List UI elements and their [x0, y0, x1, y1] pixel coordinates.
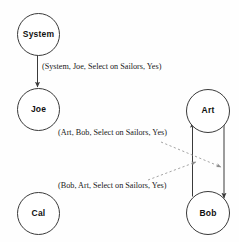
node-art[interactable]: Art [186, 89, 230, 133]
node-system[interactable]: System [17, 13, 60, 56]
edge-label-system-joe: (System, Joe, Select on Sailors, Yes) [42, 63, 161, 71]
edge-label-art-bob: (Art, Bob, Select on Sailors, Yes) [58, 129, 167, 137]
diagram-canvas: System Joe Cal Art Bob (System, Joe, Sel… [0, 0, 239, 242]
node-label-art: Art [202, 106, 215, 115]
node-cal[interactable]: Cal [17, 192, 60, 235]
node-label-joe: Joe [31, 105, 46, 114]
leader-line-art-bob [161, 142, 221, 167]
edge-label-bob-art: (Bob, Art, Select on Sailors, Yes) [58, 182, 166, 190]
node-bob[interactable]: Bob [186, 191, 230, 235]
node-joe[interactable]: Joe [17, 88, 60, 131]
node-label-cal: Cal [32, 209, 46, 218]
node-label-system: System [23, 30, 54, 39]
leader-line-bob-art [148, 162, 196, 180]
node-label-bob: Bob [199, 209, 216, 218]
